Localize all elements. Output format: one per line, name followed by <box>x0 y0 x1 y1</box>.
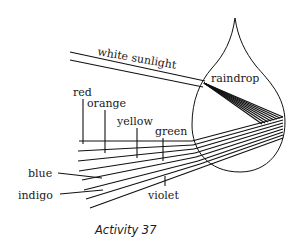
spectrum-rays <box>78 141 203 208</box>
caption: Activity 37 <box>94 223 157 237</box>
internal-rays-incoming <box>204 83 283 124</box>
label-green: green <box>155 125 187 138</box>
label-violet: violet <box>147 189 179 202</box>
label-blue: blue <box>28 167 52 180</box>
label-indigo: indigo <box>18 189 53 202</box>
raindrop-outline <box>192 18 285 172</box>
label-raindrop: raindrop <box>211 72 259 85</box>
rainbow-refraction-diagram: white sunlight raindrop red orange yello… <box>0 0 300 247</box>
label-yellow: yellow <box>116 115 153 128</box>
label-orange: orange <box>87 97 126 110</box>
